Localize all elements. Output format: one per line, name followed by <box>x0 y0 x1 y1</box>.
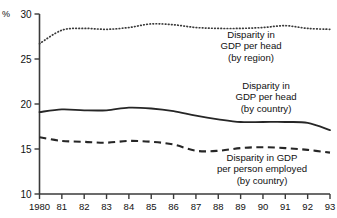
annotation-line: (by country) <box>212 103 320 114</box>
annotation-line: (by region) <box>195 52 307 63</box>
x-tick-label: 89 <box>235 201 246 212</box>
x-tick-label: 83 <box>101 201 112 212</box>
x-axis-tick-labels: 198081828384858687888990919293 <box>29 201 335 212</box>
annotation-disparity-by-region: Disparity in GDP per head (by region) <box>195 29 307 63</box>
line-chart: 1015202530 19808182838485868788899091929… <box>0 0 337 218</box>
y-tick-label: 15 <box>20 144 32 155</box>
y-axis-unit-label: % <box>2 9 10 19</box>
x-tick-label: 84 <box>124 201 135 212</box>
x-tick-label: 92 <box>302 201 313 212</box>
x-tick-label: 88 <box>213 201 224 212</box>
x-tick-label: 91 <box>280 201 291 212</box>
annotation-line: (by country) <box>196 175 328 186</box>
y-tick-label: 10 <box>20 189 32 200</box>
annotation-disparity-by-country: Disparity in GDP per head (by country) <box>212 80 320 114</box>
x-tick-label: 81 <box>57 201 68 212</box>
x-tick-label: 1980 <box>29 201 50 212</box>
x-tick-label: 90 <box>258 201 269 212</box>
annotation-line: per person employed <box>196 163 328 174</box>
x-tick-label: 82 <box>79 201 90 212</box>
annotation-line: Disparity in <box>195 29 307 40</box>
x-tick-label: 86 <box>168 201 179 212</box>
x-tick-label: 87 <box>191 201 202 212</box>
annotation-line: GDP per head <box>212 91 320 102</box>
x-tick-label: 93 <box>325 201 336 212</box>
y-tick-label: 30 <box>20 9 32 20</box>
series-line-2 <box>40 137 331 152</box>
annotation-line: Disparity in <box>212 80 320 91</box>
annotation-line: Disparity in GDP <box>196 152 328 163</box>
x-tick-label: 85 <box>146 201 157 212</box>
y-axis-tick-labels: 1015202530 <box>20 9 32 200</box>
y-tick-label: 20 <box>20 99 32 110</box>
annotation-disparity-per-person-employed: Disparity in GDP per person employed (by… <box>196 152 328 186</box>
annotation-line: GDP per head <box>195 40 307 51</box>
y-tick-label: 25 <box>20 54 32 65</box>
